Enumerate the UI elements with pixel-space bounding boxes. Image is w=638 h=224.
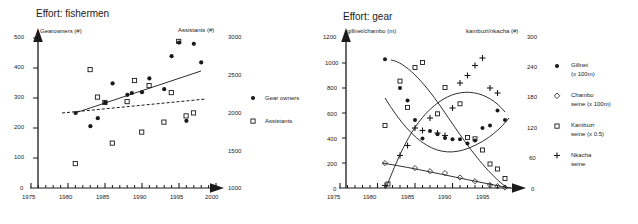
legend-marker-kambuzi — [555, 124, 559, 128]
y-axis-ticks-left — [33, 38, 38, 158]
legend-marker-gear-owners — [251, 96, 255, 100]
chart-panel-effort-fishermen: Effort: fishermen Gearowners (#) Assista… — [0, 0, 319, 224]
series-gillnet-points — [383, 57, 507, 145]
legend-marker-gillnet — [555, 64, 559, 68]
axis-left-vertical — [33, 28, 43, 188]
trendline-gear-owners — [75, 71, 201, 113]
trendcurve-nkacha — [386, 92, 505, 188]
series-assistants-points — [73, 39, 195, 165]
plot-canvas-right — [319, 0, 638, 224]
chart-panel-effort-gear: Effort: gear gillnet/chambo (m) kambuzi/… — [319, 0, 638, 224]
legend-marker-assistants — [251, 119, 255, 123]
plot-canvas-left — [0, 0, 319, 224]
trendline-assistants — [62, 99, 206, 113]
axis-right-vertical — [341, 28, 351, 188]
series-nkacha-points — [382, 55, 501, 189]
x-axis-ticks-left — [31, 183, 216, 188]
legend-marker-nkacha — [554, 153, 560, 159]
legend-marker-chambo — [554, 93, 560, 99]
series-kambuzi-points — [383, 61, 507, 187]
